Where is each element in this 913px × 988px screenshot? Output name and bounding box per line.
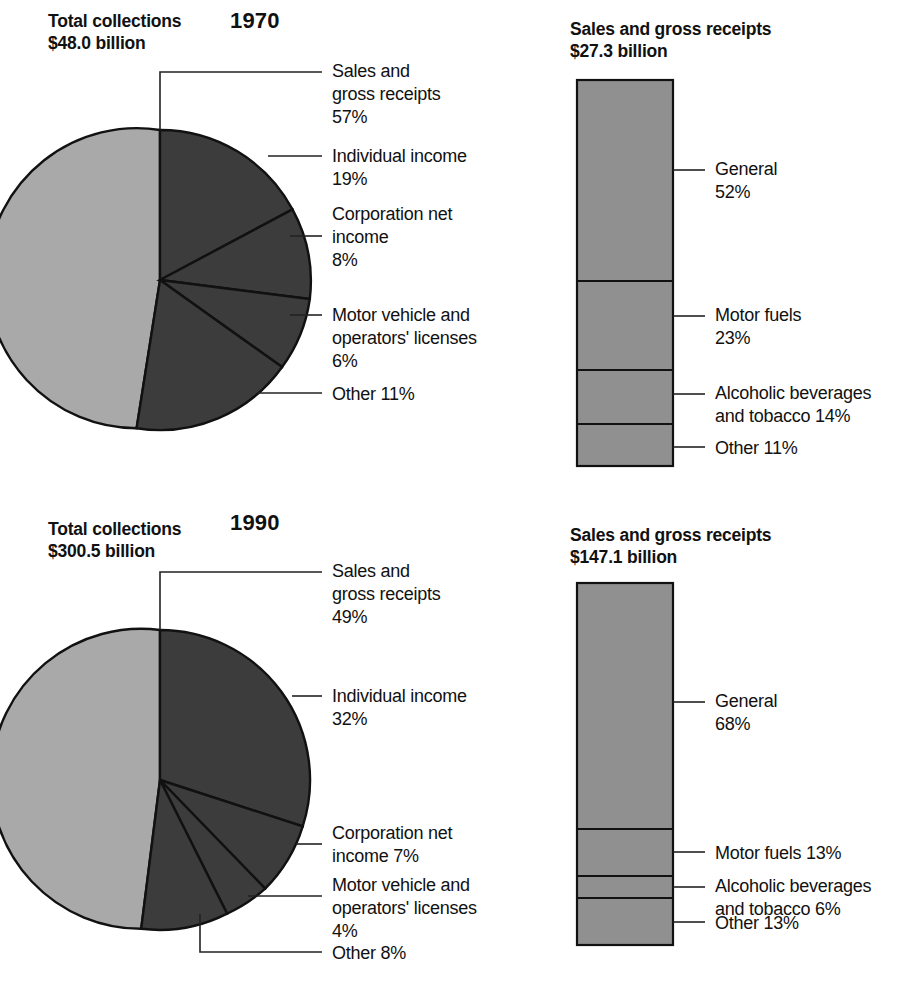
panel-1970: 1970 Total collections $48.0 billion Sal… [0,0,913,494]
bar-callout-motor-fuels-1970: Motor fuels 23% [715,304,801,350]
bar-body-1970 [577,80,673,466]
panel-1990: 1990 Total collections $300.5 billion Sa… [0,494,913,988]
bar-callout-alcohol-tobacco-1970: Alcoholic beverages and tobacco 14% [715,382,871,428]
bar-callout-general-1990: General 68% [715,690,777,736]
bar-body-1990 [577,583,673,945]
bar-callout-general-1970: General 52% [715,158,777,204]
bar-callout-motor-fuels-1990: Motor fuels 13% [715,842,841,865]
bar-callout-other-1990: Other 13% [715,912,799,935]
bar-callout-other-1970: Other 11% [715,437,797,460]
